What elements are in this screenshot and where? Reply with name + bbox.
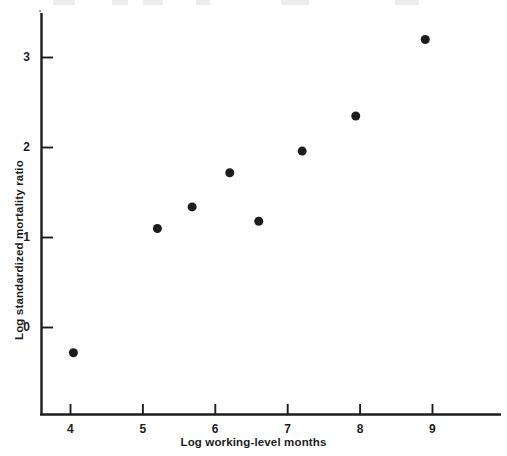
data-point — [188, 202, 197, 211]
data-point — [69, 348, 78, 357]
axis-lines — [40, 13, 501, 415]
data-point — [153, 224, 162, 233]
x-axis-title: Log working-level months — [0, 437, 507, 449]
y-axis-title: Log standardized mortality ratio — [14, 60, 26, 340]
x-tick-marks — [71, 404, 433, 415]
x-tick-label-8: 8 — [357, 423, 364, 435]
data-point — [421, 35, 430, 44]
y-tick-marks — [42, 58, 54, 328]
x-tick-label-7: 7 — [284, 423, 291, 435]
data-point-series — [69, 35, 430, 357]
plot-area: 3 2 1 0 4 5 6 7 8 9 Log standardized mor… — [0, 0, 507, 456]
x-tick-label-5: 5 — [139, 423, 146, 435]
x-tick-label-4: 4 — [67, 423, 74, 435]
scatter-plot-figure: 3 2 1 0 4 5 6 7 8 9 Log standardized mor… — [0, 0, 507, 456]
x-tick-label-6: 6 — [212, 423, 219, 435]
data-point — [351, 112, 360, 121]
data-point — [298, 147, 307, 156]
plot-canvas — [0, 0, 507, 456]
data-point — [254, 217, 263, 226]
data-point — [225, 168, 234, 177]
x-tick-label-9: 9 — [429, 423, 436, 435]
